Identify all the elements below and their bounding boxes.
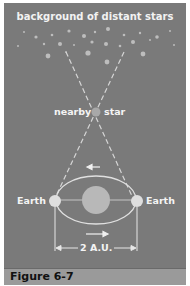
earth-right — [131, 195, 143, 207]
orbit-arrow-top — [87, 165, 100, 170]
caption-bar: Figure 6-7 — [4, 268, 186, 285]
distant-stars — [17, 27, 175, 64]
figure-caption: Figure 6-7 — [10, 270, 74, 283]
earth-right-label: Earth — [146, 195, 175, 206]
sun — [82, 186, 110, 214]
nearby-label: nearby — [54, 106, 91, 117]
earth-left-label: Earth — [17, 195, 46, 206]
star-label: star — [104, 106, 125, 117]
sight-lines — [56, 52, 132, 196]
distance-label: 2 A.U. — [80, 242, 112, 253]
nearby-star — [92, 108, 101, 117]
earth-left — [49, 195, 61, 207]
orbit-arrow-bottom — [86, 232, 108, 237]
